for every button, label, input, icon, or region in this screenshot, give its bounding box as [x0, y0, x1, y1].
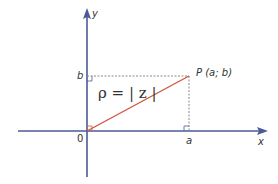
rho-label: ρ = | z |	[98, 86, 156, 101]
point-p-label: P (a; b)	[196, 68, 232, 78]
x-axis-label: x	[258, 137, 264, 147]
a-label: a	[186, 136, 192, 146]
b-label: b	[77, 71, 83, 81]
y-axis-label: y	[92, 9, 98, 19]
origin-label: 0	[77, 134, 83, 144]
